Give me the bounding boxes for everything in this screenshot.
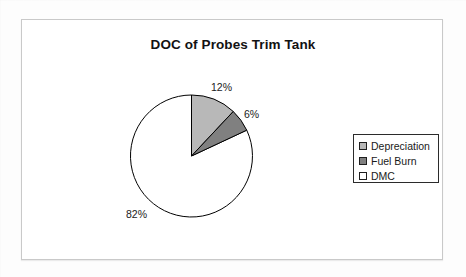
legend-label-depreciation: Depreciation <box>371 141 430 152</box>
pie-label-fuel-burn: 6% <box>244 108 259 120</box>
chart-canvas: DOC of Probes Trim Tank 12% 6% 82% Depre… <box>0 0 466 277</box>
legend-swatch-fuel-burn <box>359 157 367 165</box>
legend-label-fuel-burn: Fuel Burn <box>371 156 417 167</box>
legend-item-dmc[interactable]: DMC <box>359 169 438 183</box>
legend-swatch-depreciation <box>359 142 367 150</box>
pie-label-dmc: 82% <box>126 208 147 220</box>
legend-label-dmc: DMC <box>371 171 395 182</box>
legend-item-fuel-burn[interactable]: Fuel Burn <box>359 154 438 168</box>
chart-legend: Depreciation Fuel Burn DMC <box>353 134 439 183</box>
chart-frame: DOC of Probes Trim Tank 12% 6% 82% Depre… <box>21 19 443 260</box>
legend-swatch-dmc <box>359 172 367 180</box>
pie-label-depreciation: 12% <box>211 81 232 93</box>
legend-item-depreciation[interactable]: Depreciation <box>359 139 438 153</box>
